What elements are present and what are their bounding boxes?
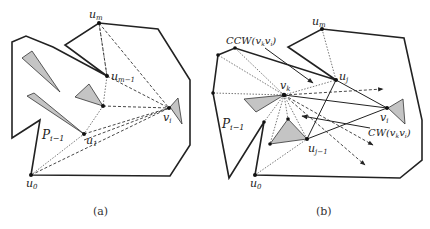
label-p-i-1: Pi−1 (41, 128, 64, 143)
label-ccw: CCW(vkvi) (226, 35, 276, 47)
label-u-0: u0 (250, 177, 262, 191)
obstacle (75, 84, 103, 106)
label-u-j-1: uj−1 (308, 142, 328, 156)
obstacle (27, 93, 84, 134)
label-u-m: um (89, 8, 103, 22)
label-v-i: vi (163, 111, 171, 125)
label-u-0: u0 (26, 177, 38, 191)
obstacle (22, 51, 60, 92)
vertex-v-i (385, 106, 389, 110)
vertex-v-k (282, 93, 287, 98)
panel-b: um uj vk vi uj−1 u0 Pi−1 CCW(vkvi) CW(vk… (211, 15, 422, 218)
vertex (101, 104, 105, 108)
label-u-m: um (312, 15, 326, 29)
label-u-j: uj (339, 70, 349, 84)
label-v-k: vk (280, 79, 290, 93)
vertex-u-j-1 (305, 137, 309, 141)
vertex (268, 142, 272, 146)
figure-canvas: um um−1 vi u1 u0 Pi−1 (a) (0, 0, 430, 229)
ccw-arrow (265, 48, 313, 83)
vertex (286, 117, 290, 121)
panel-a: um um−1 vi u1 u0 Pi−1 (a) (12, 8, 190, 218)
vertex (216, 53, 220, 57)
label-v-i: vi (380, 111, 388, 125)
label-u-m-1: um−1 (111, 70, 135, 84)
obstacle (270, 119, 307, 144)
vertex (233, 46, 237, 50)
label-p-i-1: Pi−1 (221, 117, 244, 132)
vertex (211, 91, 215, 95)
obstacle (170, 98, 182, 124)
vertex-u-j (334, 78, 338, 82)
label-cw: CW(vkvi) (368, 127, 411, 139)
caption-b: (b) (316, 205, 332, 218)
cw-arrow (302, 116, 370, 128)
obstacle (388, 99, 405, 124)
label-u-1: u1 (86, 134, 98, 148)
vertex-v-i (167, 106, 171, 110)
caption-a: (a) (93, 205, 108, 218)
vertex (262, 120, 266, 124)
vertex-u-m-1 (105, 74, 109, 78)
